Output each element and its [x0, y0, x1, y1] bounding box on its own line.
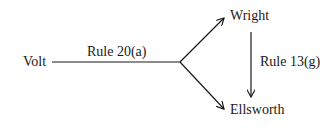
- upper-branch-arrow: [180, 18, 224, 62]
- node-wright: Wright: [230, 9, 269, 23]
- node-ellsworth: Ellsworth: [230, 103, 284, 117]
- edge-label-rule-20a: Rule 20(a): [87, 45, 146, 59]
- diagram-canvas: Volt Rule 20(a) Wright Rule 13(g) Ellswo…: [0, 0, 333, 129]
- edge-label-rule-13g: Rule 13(g): [260, 55, 320, 69]
- lower-branch-arrow: [180, 62, 224, 109]
- node-volt: Volt: [23, 55, 46, 69]
